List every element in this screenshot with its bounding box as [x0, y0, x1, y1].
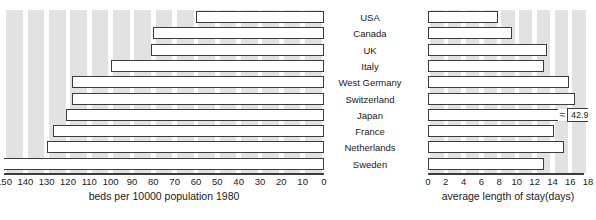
bar-beds: [111, 60, 324, 72]
left-axis-title: beds per 10000 population 1980: [89, 190, 240, 203]
category-label: Italy: [330, 59, 410, 75]
bar-row: [4, 124, 324, 140]
bar-stay: [428, 125, 554, 137]
bar-row: [428, 10, 588, 26]
left-plot-area: [4, 10, 324, 173]
bar-row: [4, 140, 324, 156]
bar-stay: [428, 93, 575, 105]
bar-stay: [428, 76, 569, 88]
left-panel-beds: 1501401301201101009080706050403020100 be…: [0, 0, 340, 220]
axis-tick-label: 110: [82, 176, 97, 188]
bar-row: [4, 108, 324, 124]
bar-beds: [53, 125, 324, 137]
bar-stay: [428, 158, 544, 170]
right-axis-ticks: 024681012141618: [404, 176, 596, 190]
bar-beds: [72, 93, 324, 105]
bar-beds: [151, 44, 324, 56]
bar-stay: [428, 44, 547, 56]
axis-tick-label: 8: [496, 176, 501, 188]
category-label: Switzerland: [330, 92, 410, 108]
bar-row: [428, 157, 588, 173]
bar-row: [428, 92, 588, 108]
category-label: Netherlands: [330, 140, 410, 156]
axis-tick-label: 12: [529, 176, 540, 188]
bar-row: [428, 124, 588, 140]
axis-tick-label: 120: [60, 176, 76, 188]
axis-tick-label: 80: [148, 176, 159, 188]
axis-tick-label: 150: [0, 176, 12, 188]
left-axis-ticks: 1501401301201101009080706050403020100: [0, 176, 340, 190]
category-label: USA: [330, 10, 410, 26]
dual-panel-bar-chart: 1501401301201101009080706050403020100 be…: [0, 0, 596, 220]
bar-row: [4, 26, 324, 42]
axis-tick-label: 4: [461, 176, 466, 188]
bar-stay: [428, 27, 512, 39]
axis-tick-label: 6: [479, 176, 484, 188]
bar-beds: [4, 158, 324, 170]
axis-tick-label: 0: [425, 176, 430, 188]
axis-tick-label: 140: [17, 176, 33, 188]
bar-stay: [428, 11, 498, 23]
bar-row: 42.9: [428, 108, 588, 124]
axis-tick-label: 10: [512, 176, 523, 188]
axis-tick-label: 30: [255, 176, 266, 188]
right-panel-stay: 42.9 024681012141618 average length of s…: [404, 0, 596, 220]
category-label: Japan: [330, 108, 410, 124]
axis-tick-label: 100: [103, 176, 119, 188]
axis-tick-label: 70: [169, 176, 180, 188]
bar-stay: [428, 60, 544, 72]
category-label: Canada: [330, 26, 410, 42]
axis-tick-label: 18: [583, 176, 594, 188]
axis-tick-label: 60: [191, 176, 202, 188]
bar-row: [4, 157, 324, 173]
category-label-column: USACanadaUKItalyWest GermanySwitzerlandJ…: [330, 0, 410, 175]
bar-row: [428, 140, 588, 156]
axis-tick-label: 10: [297, 176, 308, 188]
bar-beds: [153, 27, 324, 39]
axis-tick-label: 130: [39, 176, 55, 188]
right-axis-line: [428, 173, 584, 175]
category-label: West Germany: [330, 75, 410, 91]
axis-break-icon: [558, 109, 567, 121]
category-label: Sweden: [330, 157, 410, 173]
left-axis-line: [4, 173, 324, 175]
category-label: UK: [330, 43, 410, 59]
bar-beds: [196, 11, 324, 23]
bar-row: [428, 59, 588, 75]
bar-beds: [47, 141, 324, 153]
axis-tick-label: 2: [443, 176, 448, 188]
axis-tick-label: 50: [212, 176, 223, 188]
bar-row: [428, 26, 588, 42]
right-axis-title: average length of stay(days): [442, 190, 575, 203]
bar-row: [4, 59, 324, 75]
bar-row: [428, 75, 588, 91]
axis-tick-label: 90: [127, 176, 138, 188]
bar-stay: [428, 141, 564, 153]
bar-beds: [66, 109, 324, 121]
category-label: France: [330, 124, 410, 140]
bar-row: [4, 10, 324, 26]
axis-tick-label: 16: [565, 176, 576, 188]
axis-tick-label: 14: [547, 176, 558, 188]
right-plot-area: 42.9: [428, 10, 588, 173]
bar-row: [4, 75, 324, 91]
bar-beds: [72, 76, 324, 88]
axis-tick-label: 40: [233, 176, 244, 188]
bar-row: [4, 92, 324, 108]
data-value-callout: 42.9: [567, 108, 588, 122]
axis-tick-label: 20: [276, 176, 287, 188]
axis-tick-label: 0: [321, 176, 326, 188]
bar-row: [4, 43, 324, 59]
bar-row: [428, 43, 588, 59]
